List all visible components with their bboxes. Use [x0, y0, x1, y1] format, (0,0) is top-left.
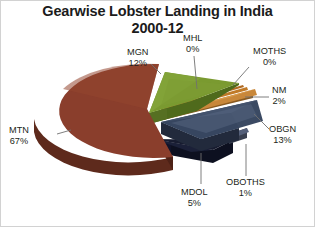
pie-label-obgn-name: OBGN: [269, 124, 296, 134]
pie-label-mgn-name: MGN: [127, 47, 148, 57]
pie-label-mhl: MHL 0%: [183, 33, 202, 54]
pie-label-oboths-name: OBOTHS: [226, 177, 265, 187]
pie-label-mtn-name: MTN: [9, 125, 29, 135]
pie-label-mhl-value: 0%: [183, 44, 202, 55]
pie-label-mtn-value: 67%: [9, 136, 29, 147]
pie-label-moths-value: 0%: [253, 57, 286, 68]
pie-label-mdol-value: 5%: [181, 198, 208, 209]
pie-label-mgn-value: 12%: [127, 58, 148, 69]
pie-slice-mtn[interactable]: [34, 64, 173, 176]
pie-label-mdol-name: MDOL: [181, 187, 208, 197]
leader-line-mtn: [57, 130, 71, 134]
pie-label-mtn: MTN 67%: [9, 125, 29, 146]
pie-label-moths: MOTHS 0%: [253, 46, 286, 67]
leader-line-moths: [233, 67, 249, 85]
pie-label-moths-name: MOTHS: [253, 46, 286, 56]
pie-label-oboths: OBOTHS 1%: [226, 177, 265, 198]
pie-label-mgn: MGN 12%: [127, 47, 148, 68]
pie-label-nm-value: 2%: [272, 96, 286, 107]
chart-frame: Gearwise Lobster Landing in India 2000-1…: [0, 0, 315, 227]
pie-label-oboths-value: 1%: [226, 188, 265, 199]
pie-label-obgn: OBGN 13%: [269, 124, 296, 145]
pie-label-nm-name: NM: [272, 85, 286, 95]
pie-chart-plot: [1, 1, 314, 226]
pie-label-nm: NM 2%: [272, 85, 286, 106]
pie-label-mdol: MDOL 5%: [181, 187, 208, 208]
pie-label-mhl-name: MHL: [183, 33, 202, 43]
pie-label-obgn-value: 13%: [269, 135, 296, 146]
